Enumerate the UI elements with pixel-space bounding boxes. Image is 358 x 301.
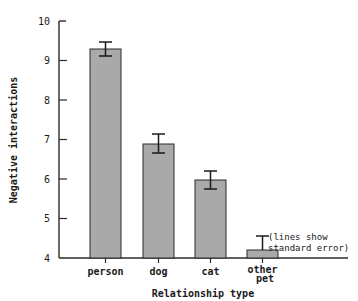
x-axis-title: Relationship type [152,288,254,299]
y-tick-label-7: 7 [44,134,50,145]
y-tick-label-4: 4 [44,253,50,264]
x-tick-label-other-pet-line2: pet [256,273,274,284]
bar-cat [195,180,226,258]
x-tick-label-person: person [87,266,123,277]
y-tick-label-10: 10 [38,16,50,27]
y-tick-label-8: 8 [44,95,50,106]
y-axis-title: Negative interactions [8,77,19,203]
y-tick-label-5: 5 [44,213,50,224]
y-tick-label-6: 6 [44,174,50,185]
chart-canvas: Negative interactions 10 9 8 7 6 5 4 [0,0,358,301]
x-tick-label-cat: cat [201,266,219,277]
error-bar-annotation-line2: standard error) [268,243,349,253]
bar-dog [143,144,174,258]
bar-chart-figure: Negative interactions 10 9 8 7 6 5 4 [0,0,358,301]
y-tick-label-9: 9 [44,55,50,66]
x-tick-label-dog: dog [149,266,167,277]
bar-person [90,49,121,258]
error-bar-annotation-line1: (lines show [268,232,328,242]
